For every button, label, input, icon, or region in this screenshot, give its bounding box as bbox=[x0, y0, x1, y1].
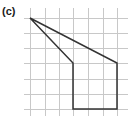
grid-diagram bbox=[0, 0, 132, 120]
grid-lines bbox=[24, 8, 128, 116]
